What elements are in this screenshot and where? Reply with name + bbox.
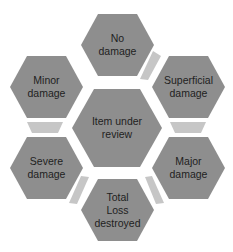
label-item-under-review: Item under review (72, 89, 162, 167)
label-major-damage: Major damage (152, 137, 225, 199)
label-total-loss-destroyed: Total Loss destroyed (81, 179, 154, 241)
label-superficial-damage: Superficial damage (152, 56, 225, 118)
connector-superficial-to-major (170, 122, 206, 133)
connector-severe-to-minor (27, 122, 63, 133)
label-no-damage: No damage (81, 14, 154, 76)
